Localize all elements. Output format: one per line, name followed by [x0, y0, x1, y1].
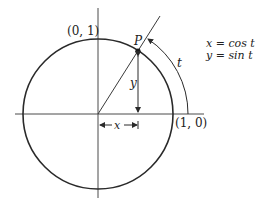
unit-circle-diagram: (0, 1) (1, 0) P t y x x = cos t y = sin … — [0, 0, 268, 206]
label-x: x — [114, 119, 121, 132]
radius-line — [98, 16, 160, 114]
label-right-point: (1, 0) — [175, 116, 207, 130]
label-top-point: (0, 1) — [67, 24, 99, 38]
label-y: y — [129, 76, 137, 90]
equation-y: y = sin t — [205, 49, 253, 62]
arc-t — [148, 39, 188, 114]
label-t: t — [177, 56, 182, 70]
label-p: P — [133, 34, 143, 48]
point-p — [135, 48, 140, 53]
